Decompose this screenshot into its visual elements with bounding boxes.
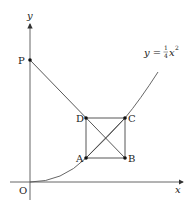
point-d-label: D: [76, 113, 84, 124]
point-p-label: P: [18, 55, 25, 66]
equation-lhs: y =: [143, 47, 161, 58]
point-d: [84, 116, 88, 120]
point-b: [123, 156, 127, 160]
diagram-canvas: y x O P D C A B y = 1 4 x 2: [0, 0, 195, 208]
equation-exp: 2: [175, 44, 179, 51]
x-axis-label: x: [175, 184, 181, 195]
equation-frac-num: 1: [164, 44, 168, 51]
point-p: [28, 58, 32, 62]
point-a-label: A: [75, 153, 84, 164]
curve-equation-label: y = 1 4 x 2: [143, 44, 179, 59]
equation-frac-den: 4: [164, 52, 168, 59]
y-axis-label: y: [26, 10, 33, 21]
point-a: [84, 156, 88, 160]
point-b-label: B: [128, 153, 135, 164]
parabola-curve: [30, 72, 158, 182]
point-c: [123, 116, 127, 120]
point-c-label: C: [128, 113, 136, 124]
origin-label: O: [19, 185, 27, 196]
line-pdb: [30, 60, 125, 158]
